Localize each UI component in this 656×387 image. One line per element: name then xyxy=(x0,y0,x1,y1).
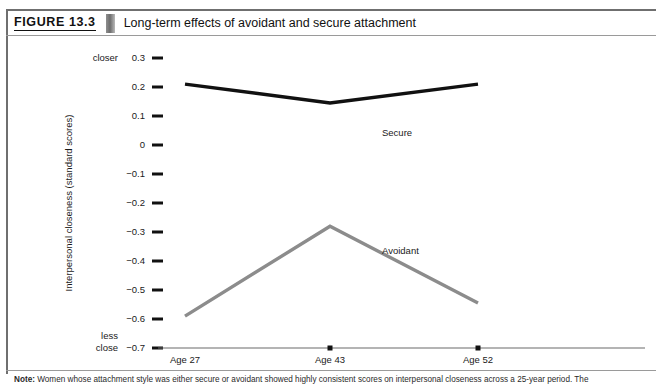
figure-number: FIGURE 13.3 xyxy=(14,16,96,31)
y-axis-tick-label: −0.3 xyxy=(126,226,145,237)
y-axis-tick-label: −0.1 xyxy=(126,168,145,179)
y-axis-tick-labels: 0.30.20.10−0.1−0.2−0.3−0.4−0.5−0.6−0.7 xyxy=(126,52,145,353)
header-separator-bar xyxy=(106,14,115,33)
y-axis-anchor-closer: closer xyxy=(93,52,118,63)
y-axis-title-text: Interpersonal closeness (standard scores… xyxy=(63,115,74,292)
note-label: Note: xyxy=(14,375,35,384)
y-axis-title: Interpersonal closeness (standard scores… xyxy=(63,115,74,292)
y-axis-tick-label: 0.3 xyxy=(132,52,145,63)
y-axis-tick-label: −0.2 xyxy=(126,197,145,208)
line-chart: 0.30.20.10−0.1−0.2−0.3−0.4−0.5−0.6−0.7 c… xyxy=(0,36,656,370)
y-axis-anchor-less: less xyxy=(101,330,118,341)
data-series xyxy=(185,84,478,316)
chart-plot-area: 0.30.20.10−0.1−0.2−0.3−0.4−0.5−0.6−0.7 c… xyxy=(0,36,656,370)
x-axis-category-label: Age 52 xyxy=(463,354,493,365)
series-annotation-avoidant: Avoidant xyxy=(382,245,419,256)
y-axis-tick-label: 0.1 xyxy=(132,110,145,121)
series-annotation-secure: Secure xyxy=(382,127,412,138)
x-axis-tick-marker xyxy=(476,346,481,351)
y-axis-anchor-close: close xyxy=(96,342,118,353)
series-line-secure xyxy=(185,84,478,103)
x-axis-tick-marker xyxy=(328,346,333,351)
figure-title: Long-term effects of avoidant and secure… xyxy=(124,16,416,30)
series-annotations: SecureAvoidant xyxy=(382,127,419,255)
figure-container: FIGURE 13.3 Long-term effects of avoidan… xyxy=(0,0,656,387)
y-axis-ticks xyxy=(152,58,163,348)
figure-top-rule xyxy=(6,9,656,11)
y-axis-tick-label: −0.4 xyxy=(126,255,145,266)
x-axis-category-label: Age 43 xyxy=(315,354,345,365)
y-axis-tick-label: 0.2 xyxy=(132,81,145,92)
y-axis-tick-label: −0.7 xyxy=(126,342,145,353)
note-text: Women whose attachment style was either … xyxy=(35,375,589,384)
figure-note-rule xyxy=(6,370,656,371)
x-axis-category-label: Age 27 xyxy=(170,354,200,365)
figure-note: Note: Women whose attachment style was e… xyxy=(14,374,650,385)
series-line-avoidant xyxy=(185,226,478,316)
y-axis-anchor-labels: closerlessclose xyxy=(93,52,119,353)
y-axis-tick-label: 0 xyxy=(140,139,145,150)
x-axis: Age 27Age 43Age 52 xyxy=(158,346,645,366)
y-axis-tick-label: −0.6 xyxy=(126,313,145,324)
figure-header: FIGURE 13.3 Long-term effects of avoidan… xyxy=(14,13,416,33)
y-axis-tick-label: −0.5 xyxy=(126,284,145,295)
